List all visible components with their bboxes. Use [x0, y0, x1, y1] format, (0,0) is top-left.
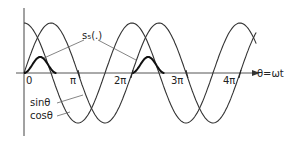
tick-label-0: 0: [26, 76, 32, 86]
sin-label: sinθ: [30, 98, 50, 108]
waveform-diagram: [0, 0, 292, 146]
s5-leader-line-1: [44, 40, 84, 58]
tick-label-3pi: 3π: [171, 76, 183, 86]
axis-label: θ=ωt: [257, 69, 284, 79]
tick-label-4pi: 4π: [223, 76, 235, 86]
s5-leader-line-2: [98, 40, 136, 60]
cos-label: cosθ: [30, 111, 53, 121]
tick-label-pi: π: [70, 76, 76, 86]
tick-label-2pi: 2π: [114, 76, 126, 86]
s5-label: s₅(.): [82, 31, 102, 41]
